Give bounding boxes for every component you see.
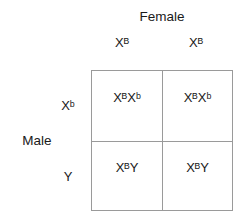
punnett-cell-r1c1: XᴮXᵇ [92,71,162,141]
punnett-square-figure: Female Xᴮ Xᴮ Male Xᵇ Y XᴮXᵇ XᴮXᵇ XᴮY XᴮY [0,0,246,224]
offspring-genotype: XᴮXᵇ [113,91,141,104]
offspring-genotype: XᴮY [186,161,209,174]
female-allele-2: Xᴮ [166,36,226,49]
female-allele-1: Xᴮ [92,36,152,49]
punnett-cell-r1c2: XᴮXᵇ [162,71,232,141]
punnett-cell-r2c2: XᴮY [162,141,232,211]
male-allele-1: Xᵇ [48,99,88,112]
offspring-genotype: XᴮXᵇ [184,91,212,104]
punnett-cell-r2c1: XᴮY [92,141,162,211]
male-allele-2: Y [48,170,88,183]
offspring-genotype: XᴮY [116,161,139,174]
male-parent-label: Male [12,134,62,148]
punnett-grid: XᴮXᵇ XᴮXᵇ XᴮY XᴮY [91,70,233,211]
female-parent-label: Female [91,10,233,24]
